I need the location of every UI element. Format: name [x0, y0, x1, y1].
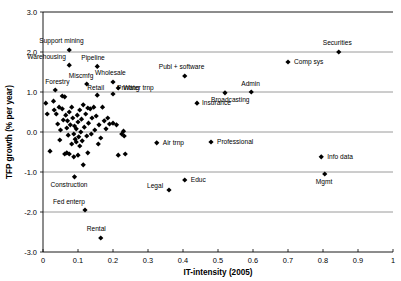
data-point-labels: Support miningWarehousingPipelineForestr…: [27, 37, 353, 232]
data-point: [66, 133, 71, 138]
gridlines: [43, 52, 393, 212]
data-point: [103, 126, 108, 131]
chart-canvas: 3.02.01.00.0-1.0-2.0-3.0 00.10.20.30.40.…: [0, 0, 401, 281]
data-point: [45, 111, 50, 116]
x-tick-label: 0.4: [178, 256, 188, 265]
data-point: [75, 113, 80, 118]
data-point-label: Comp sys: [294, 58, 324, 66]
data-point: [80, 138, 85, 143]
data-point: [61, 117, 66, 122]
x-tick-label: 1: [391, 256, 395, 265]
y-tick-label: 0.0: [27, 128, 37, 137]
y-axis-title: TFP growth (% per year): [5, 85, 14, 179]
data-point: [70, 115, 75, 120]
data-point: [63, 113, 68, 118]
data-point: [116, 153, 121, 158]
data-point: [82, 125, 87, 130]
data-point: [194, 101, 199, 106]
y-axis-tick-labels: 3.02.01.00.0-1.0-2.0-3.0: [24, 8, 37, 257]
data-point: [166, 187, 171, 192]
data-point: [83, 111, 88, 116]
data-point-label: Legal: [147, 182, 164, 190]
data-point: [69, 105, 74, 110]
data-point-label: Retail: [87, 84, 104, 91]
data-point: [110, 79, 115, 84]
data-point-label: Construction: [51, 181, 88, 188]
data-point: [57, 137, 62, 142]
data-point: [123, 151, 128, 156]
data-point-label: Publ + software: [159, 63, 205, 70]
data-point: [182, 73, 187, 78]
data-point: [51, 99, 56, 104]
data-point-label: Securities: [323, 39, 353, 46]
data-point-label: Forestry: [45, 78, 70, 86]
data-point: [75, 153, 80, 158]
data-point-label: Air trnp: [163, 139, 185, 147]
y-tick-label: 3.0: [27, 8, 37, 17]
data-point: [336, 49, 341, 54]
data-point: [285, 59, 290, 64]
data-point: [43, 101, 48, 106]
data-point: [98, 235, 103, 240]
data-point: [96, 122, 101, 127]
data-point: [81, 162, 86, 167]
data-point: [72, 174, 77, 179]
x-tick-label: 0.8: [318, 256, 328, 265]
x-tick-label: 0.5: [213, 256, 223, 265]
data-point: [67, 63, 72, 68]
data-point-label: Broadcasting: [211, 96, 250, 104]
data-point: [84, 133, 89, 138]
data-point: [75, 119, 80, 124]
data-point: [182, 177, 187, 182]
x-tick-label: 0: [41, 256, 45, 265]
x-tick-label: 0.7: [283, 256, 293, 265]
data-point: [85, 150, 90, 155]
data-point: [77, 107, 82, 112]
data-point-label: Support mining: [39, 37, 84, 45]
data-point: [64, 125, 69, 130]
data-point-label: Professional: [217, 138, 254, 145]
data-point: [96, 141, 101, 146]
data-point: [65, 118, 70, 123]
data-point: [68, 122, 73, 127]
y-tick-label: -1.0: [24, 168, 37, 177]
data-point-label: Miscmfg: [69, 72, 94, 80]
data-point: [208, 139, 213, 144]
data-point: [81, 102, 86, 107]
x-tick-label: 0.3: [143, 256, 153, 265]
scatter-chart: 3.02.01.00.0-1.0-2.0-3.0 00.10.20.30.40.…: [0, 0, 401, 281]
data-point-label: Educ: [191, 176, 207, 183]
data-point: [249, 89, 254, 94]
data-point: [71, 154, 76, 159]
data-point: [69, 141, 74, 146]
data-point: [105, 115, 110, 120]
data-point-label: Warehousing: [27, 53, 66, 61]
x-tick-label: 0.1: [73, 256, 83, 265]
data-point-label: Fed enterp: [53, 198, 85, 206]
data-point: [67, 109, 72, 114]
data-point: [78, 129, 83, 134]
data-point-label: Rental: [87, 225, 107, 232]
x-tick-label: 0.9: [353, 256, 363, 265]
y-tick-label: -2.0: [24, 208, 37, 217]
data-point: [222, 90, 227, 95]
data-point: [55, 121, 60, 126]
data-point-label: Pipeline: [81, 54, 105, 62]
data-point: [154, 140, 159, 145]
y-tick-label: -3.0: [24, 248, 37, 257]
data-point: [319, 154, 324, 159]
x-axis-title: IT-intensity (2005): [183, 268, 252, 277]
data-point: [79, 117, 84, 122]
data-point-label: Wholesale: [95, 69, 126, 76]
y-tick-label: 1.0: [27, 88, 37, 97]
x-tick-label: 0.2: [108, 256, 118, 265]
data-point: [100, 105, 105, 110]
data-point: [77, 143, 82, 148]
x-axis-tick-labels: 00.10.20.30.40.50.60.70.80.91: [41, 256, 395, 265]
data-point-label: Mgmt: [316, 178, 333, 186]
x-tick-label: 0.6: [248, 256, 258, 265]
data-point: [98, 135, 103, 140]
data-point-label: Printing: [117, 84, 140, 92]
data-point: [86, 121, 91, 126]
data-point: [95, 93, 100, 98]
